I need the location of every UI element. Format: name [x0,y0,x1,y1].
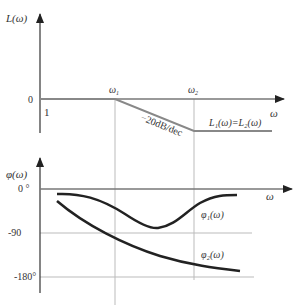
phi2-label: φ₂(ω) [201,249,224,261]
phase-y-label: φ(ω) [6,168,28,181]
phi1-label: φ₁(ω) [201,209,224,221]
magnitude-y-label: L(ω) [5,12,28,25]
magnitude-plot: L(ω) ω 0 1 ω1 ω2 −20dB/dec L₁(ω)=L₂(ω) [5,12,284,305]
omega1-label: ω1 [109,84,119,96]
phase-plot: φ(ω) ω 0 ° -90 -180° φ₁(ω) φ₂(ω) [6,158,292,293]
tick-minus-90: -90 [8,227,21,238]
phase-x-label: ω [266,190,274,202]
tick-minus-180: -180° [14,271,36,282]
curve-label: L₁(ω)=L₂(ω) [208,117,262,129]
slope-label: −20dB/dec [139,112,184,139]
omega2-label: ω2 [188,84,198,96]
tick-0: 0 ° [18,183,30,194]
zero-tick: 0 [28,94,33,105]
magnitude-x-label: ω [270,107,278,119]
bode-diagram: L(ω) ω 0 1 ω1 ω2 −20dB/dec L₁(ω)=L₂(ω) φ… [0,0,301,305]
one-tick: 1 [44,106,50,118]
